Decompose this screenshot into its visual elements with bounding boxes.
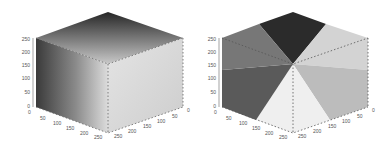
figure-hexagon-cube: 0 50 100 150 200 250 0 50 100 150 200 25… <box>186 0 390 148</box>
hexagon-cube-plot: 0 50 100 150 200 250 0 50 100 150 200 25… <box>186 0 390 148</box>
tick-label: 0 <box>372 107 375 113</box>
z-axis-ticks: 0 50 100 150 200 250 <box>22 36 31 109</box>
tick-label: 100 <box>22 75 31 81</box>
tick-label: 50 <box>357 113 363 119</box>
tick-label: 50 <box>40 115 46 121</box>
tick-label: 250 <box>114 133 123 139</box>
figure-gradient-cube: 0 50 100 150 200 250 0 50 100 150 200 25… <box>0 0 195 148</box>
tick-label: 100 <box>342 118 351 124</box>
tick-label: 50 <box>172 113 178 119</box>
tick-label: 150 <box>328 123 337 129</box>
tick-label: 200 <box>80 130 89 136</box>
tick-label: 100 <box>208 75 217 81</box>
tick-label: 50 <box>210 89 216 95</box>
tick-label: 250 <box>298 133 307 139</box>
tick-label: 0 <box>214 109 217 115</box>
tick-label: 250 <box>208 36 217 42</box>
tick-label: 0 <box>28 109 31 115</box>
tick-label: 250 <box>22 36 31 42</box>
tick-label: 200 <box>208 49 217 55</box>
tick-label: 100 <box>53 120 62 126</box>
tick-label: 200 <box>128 128 137 134</box>
tick-label: 50 <box>226 115 232 121</box>
tick-label: 150 <box>22 62 31 68</box>
tick-label: 150 <box>208 62 217 68</box>
tick-label: 100 <box>239 120 248 126</box>
gradient-cube-plot: 0 50 100 150 200 250 0 50 100 150 200 25… <box>0 0 195 148</box>
tick-label: 200 <box>265 130 274 136</box>
tick-label: 200 <box>313 128 322 134</box>
tick-label: 150 <box>66 125 75 131</box>
tick-label: 50 <box>24 89 30 95</box>
tick-label: 150 <box>143 123 152 129</box>
tick-label: 150 <box>252 125 261 131</box>
tick-label: 250 <box>279 134 288 140</box>
tick-label: 200 <box>22 49 31 55</box>
tick-label: 250 <box>94 134 103 140</box>
tick-label: 100 <box>157 118 166 124</box>
z-axis-ticks: 0 50 100 150 200 250 <box>208 36 217 109</box>
